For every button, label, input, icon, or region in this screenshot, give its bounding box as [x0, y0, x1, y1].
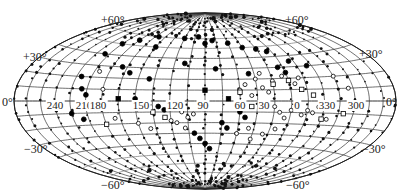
data-point-open-square [163, 115, 167, 119]
data-point-open-circle [191, 112, 195, 116]
data-point-dot [49, 72, 52, 75]
data-point-dot [213, 164, 215, 166]
data-point-dot [326, 53, 329, 56]
data-point-dot [13, 98, 15, 100]
data-point-dot [291, 57, 294, 60]
data-point-dot [283, 170, 286, 173]
data-point-dot [33, 124, 36, 127]
data-point-dot [134, 170, 136, 172]
lon-label-30: 30 [258, 100, 271, 111]
data-point-dot [142, 17, 146, 21]
data-point-dot [178, 32, 181, 35]
data-point-dot [298, 168, 301, 171]
data-point-dot [273, 174, 275, 176]
data-point-dot [253, 25, 255, 27]
data-point-dot [204, 60, 207, 63]
data-point-dot [50, 129, 52, 131]
data-point-filled-circle [213, 66, 218, 71]
data-point-dot [138, 182, 141, 185]
data-point-open-circle [175, 121, 179, 125]
data-point-dot [245, 179, 248, 182]
data-point-dot [143, 137, 145, 139]
data-point-dot [134, 177, 136, 179]
data-point-dot [305, 81, 308, 84]
data-point-dot [244, 165, 246, 167]
data-point-dot [99, 158, 101, 160]
data-point-dot [216, 42, 218, 44]
data-point-open-circle [101, 87, 105, 91]
data-point-dot [174, 183, 176, 185]
data-point-dot [64, 153, 66, 155]
lon-label-120: 120 [166, 100, 185, 111]
data-point-dot [193, 41, 196, 44]
data-point-dot [161, 161, 163, 163]
data-point-dot [174, 185, 176, 187]
data-point-dot [282, 66, 285, 69]
data-point-dot [257, 17, 260, 20]
data-point-dot [170, 169, 173, 172]
data-point-dot [149, 40, 151, 42]
data-point-dot [236, 185, 239, 188]
data-point-dot [284, 41, 286, 43]
data-point-dot [232, 142, 235, 145]
data-point-filled-circle [207, 146, 212, 151]
data-point-dot [88, 35, 90, 37]
data-point-open-square [286, 78, 290, 82]
data-point-dot [327, 131, 330, 134]
data-point-dot [134, 164, 136, 166]
data-point-dot [186, 184, 190, 188]
data-point-dot [298, 130, 300, 132]
data-point-dot [348, 122, 351, 125]
data-point-dot [290, 162, 292, 164]
data-point-dot [337, 88, 340, 91]
data-point-dot [266, 64, 268, 66]
data-point-dot [303, 172, 305, 174]
data-point-open-circle [331, 74, 335, 78]
data-point-dot [16, 85, 18, 87]
data-point-dot [163, 174, 166, 177]
data-point-dot [181, 29, 183, 31]
data-point-dot [367, 110, 370, 113]
data-point-dot [168, 17, 171, 20]
data-point-dot [266, 32, 270, 36]
data-point-dot [148, 146, 150, 148]
data-point-filled-circle [203, 141, 208, 146]
data-point-filled-circle [225, 126, 230, 131]
data-point-dot [72, 87, 74, 89]
data-point-dot [240, 25, 242, 27]
data-point-filled-circle [220, 120, 225, 125]
data-point-dot [249, 40, 251, 42]
data-point-filled-circle [79, 74, 84, 79]
data-point-dot [364, 81, 366, 83]
data-point-dot [230, 151, 232, 153]
data-point-dot [194, 34, 196, 36]
data-point-dot [170, 187, 172, 189]
data-point-dot [189, 141, 191, 143]
data-point-dot [265, 162, 268, 165]
data-point-dot [27, 111, 29, 113]
data-point-dot [231, 178, 233, 180]
data-point-filled-circle [210, 38, 215, 43]
data-point-dot [216, 152, 218, 154]
data-point-filled-circle [243, 115, 248, 120]
data-point-dot [214, 184, 217, 187]
data-point-dot [272, 18, 275, 21]
data-point-dot [318, 170, 320, 172]
sky-map-figure: +60° +60° +30° +30° 0° 0° −30° −30° −60°… [0, 0, 411, 196]
data-point-dot [204, 155, 206, 157]
data-point-dot [183, 172, 185, 174]
data-point-filled-circle [240, 45, 245, 50]
data-point-dot [109, 169, 113, 173]
data-point-dot [197, 181, 201, 185]
data-point-dot [267, 182, 270, 185]
data-point-dot [129, 25, 131, 27]
data-point-dot [229, 12, 232, 15]
data-point-filled-circle [246, 71, 251, 76]
data-point-dot [303, 38, 305, 40]
data-point-dot [184, 16, 186, 18]
data-point-open-circle [183, 126, 187, 130]
data-point-filled-circle [103, 52, 108, 57]
data-point-dot [73, 139, 75, 141]
data-point-dot [153, 87, 156, 90]
data-point-dot [175, 172, 178, 175]
